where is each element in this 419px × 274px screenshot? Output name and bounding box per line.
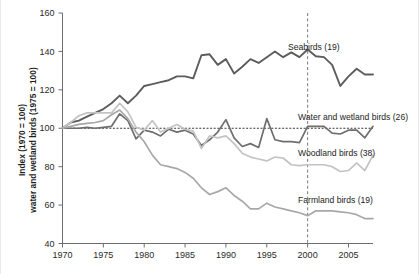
y-axis-title: Index (1970 = 100) water and wetland bir…	[17, 67, 38, 214]
y-tick-label-120: 120	[39, 85, 54, 95]
series-label-water-and-wetland-birds: Water and wetland birds (26)	[298, 112, 408, 122]
y-tick-label-40: 40	[44, 239, 54, 249]
x-tick-label-1985: 1985	[175, 250, 195, 260]
series-lines-group	[63, 50, 374, 219]
x-axis-ticks: 19701975198019851990199520002005	[52, 244, 358, 260]
y-axis-title-line2: water and wetland birds (1975 = 100)	[28, 67, 38, 214]
x-tick-label-1975: 1975	[93, 250, 113, 260]
x-tick-label-1970: 1970	[52, 250, 72, 260]
y-tick-label-60: 60	[44, 200, 54, 210]
y-axis-title-line1: Index (1970 = 100)	[17, 104, 27, 176]
figure-container: Index (1970 = 100) water and wetland bir…	[0, 0, 419, 274]
x-tick-label-1995: 1995	[257, 250, 277, 260]
y-tick-label-100: 100	[39, 123, 54, 133]
x-tick-label-2000: 2000	[298, 250, 318, 260]
series-annotations: Seabirds (19) Water and wetland birds (2…	[288, 42, 408, 205]
y-tick-label-80: 80	[44, 162, 54, 172]
y-tick-label-140: 140	[39, 47, 54, 57]
series-label-seabirds: Seabirds (19)	[288, 42, 340, 52]
series-label-woodland-birds: Woodland birds (38)	[298, 148, 375, 158]
y-axis-ticks: 406080100120140160	[39, 8, 62, 249]
x-tick-label-1980: 1980	[134, 250, 154, 260]
series-label-farmland-birds: Farmland birds (19)	[298, 195, 373, 205]
bird-population-index-line-chart: Index (1970 = 100) water and wetland bir…	[1, 0, 419, 274]
y-tick-label-160: 160	[39, 8, 54, 18]
x-tick-label-2005: 2005	[338, 250, 358, 260]
x-tick-label-1990: 1990	[216, 250, 236, 260]
